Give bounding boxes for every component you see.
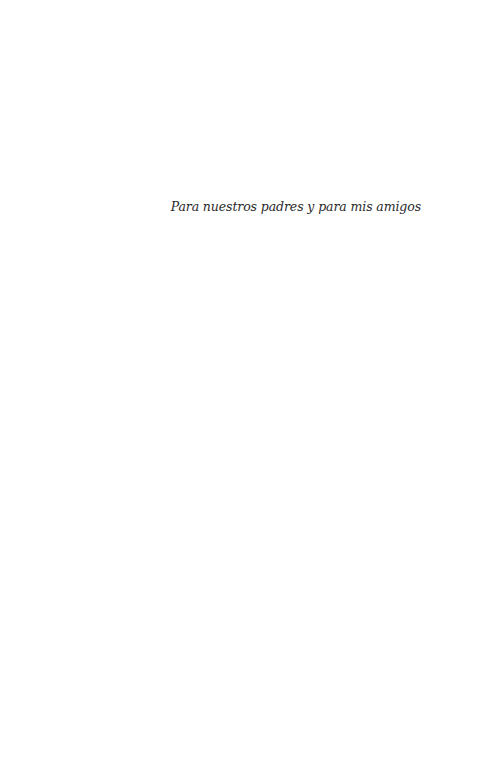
dedication-text: Para nuestros padres y para mis amigos <box>171 199 421 214</box>
document-page: Para nuestros padres y para mis amigos <box>0 0 487 767</box>
